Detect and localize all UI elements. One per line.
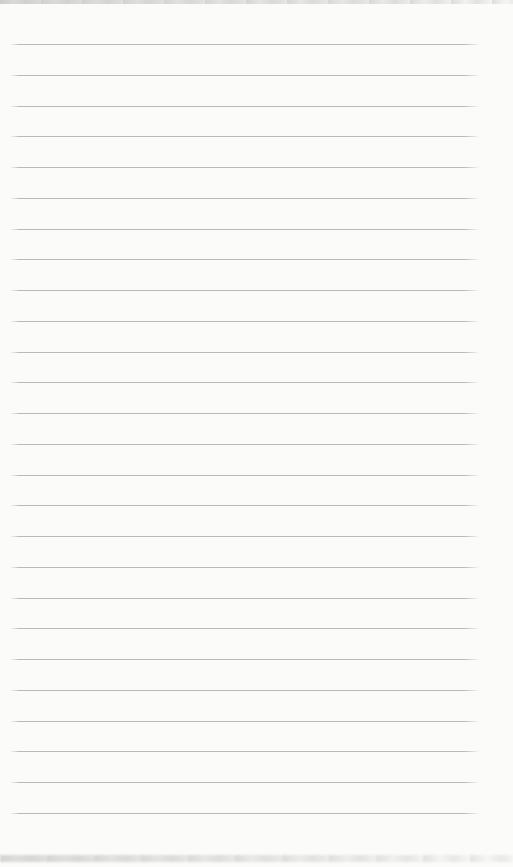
notepad-page [0,0,513,867]
ruled-line [10,75,478,76]
ruled-line [10,321,478,322]
ruled-line [10,567,478,568]
ruled-line [10,136,478,137]
ruled-line [10,167,478,168]
ruled-line [10,628,478,629]
ruled-line [10,659,478,660]
ruled-lines [0,0,513,867]
ruled-line [10,413,478,414]
ruled-line [10,229,478,230]
ruled-line [10,782,478,783]
ruled-line [10,813,478,814]
ruled-line [10,690,478,691]
ruled-line [10,290,478,291]
ruled-line [10,598,478,599]
ruled-line [10,198,478,199]
ruled-line [10,475,478,476]
ruled-line [10,536,478,537]
ruled-line [10,382,478,383]
ruled-line [10,44,478,45]
ruled-line [10,259,478,260]
ruled-line [10,444,478,445]
ruled-line [10,721,478,722]
ruled-line [10,352,478,353]
paper-bottom-edge-shadow [0,855,513,862]
ruled-line [10,106,478,107]
ruled-line [10,751,478,752]
ruled-line [10,505,478,506]
